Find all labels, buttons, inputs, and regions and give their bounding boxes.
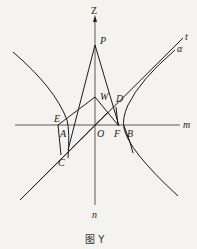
figure-caption: 图 Y (85, 234, 105, 245)
label-alpha: α (177, 43, 183, 54)
right-hyperbola-branch (124, 50, 179, 196)
label-E: E (53, 113, 60, 124)
label-O: O (97, 128, 104, 139)
label-W: W (100, 91, 110, 102)
label-m: m (183, 119, 190, 130)
label-B: B (127, 128, 133, 139)
label-A: A (59, 128, 67, 139)
label-z: Z (91, 5, 97, 16)
label-C: C (58, 157, 65, 168)
label-F: F (113, 128, 121, 139)
line-P-left (68, 45, 95, 150)
z-axis-arrow-icon (93, 15, 97, 22)
line-alpha-lower (30, 112, 108, 190)
geometry-diagram: Z n m P W D E A O F B C t α 图 Y (0, 0, 197, 249)
left-hyperbola-branch (13, 52, 69, 158)
label-t: t (185, 31, 188, 42)
label-P: P (99, 35, 106, 46)
label-D: D (115, 93, 124, 104)
label-n: n (92, 209, 97, 220)
